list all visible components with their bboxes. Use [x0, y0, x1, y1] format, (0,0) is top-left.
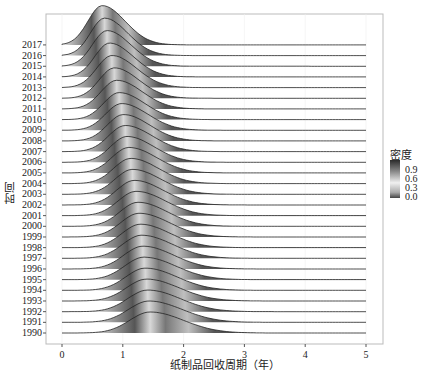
y-tick-label: 1995 [4, 275, 42, 285]
y-tick-label: 2016 [4, 51, 42, 61]
y-tick-label: 2008 [4, 136, 42, 146]
y-tick-label: 1999 [4, 232, 42, 242]
y-tick-label: 1998 [4, 243, 42, 253]
y-tick-label: 2012 [4, 93, 42, 103]
y-tick-label: 2005 [4, 168, 42, 178]
y-tick-label: 2009 [4, 125, 42, 135]
y-tick-label: 2000 [4, 221, 42, 231]
x-tick-label: 0 [52, 349, 72, 360]
y-axis-title: 时间 [2, 182, 18, 204]
x-tick-label: 1 [113, 349, 133, 360]
y-tick-label: 2013 [4, 83, 42, 93]
x-tick-label: 5 [356, 349, 376, 360]
y-tick-label: 2017 [4, 40, 42, 50]
y-tick-label: 1991 [4, 317, 42, 327]
ridgeline-chart [0, 0, 431, 370]
y-tick-label: 1994 [4, 285, 42, 295]
y-tick-label: 2014 [4, 72, 42, 82]
y-tick-label: 1992 [4, 307, 42, 317]
y-tick-label: 1997 [4, 253, 42, 263]
y-tick-label: 2011 [4, 104, 42, 114]
x-axis-title: 纸制品回收周期（年） [150, 356, 300, 370]
y-tick-label: 1993 [4, 296, 42, 306]
legend-colorbar [390, 160, 400, 198]
y-tick-label: 2001 [4, 211, 42, 221]
legend-tick: 0.0 [405, 192, 418, 202]
y-tick-label: 2010 [4, 115, 42, 125]
y-tick-label: 1990 [4, 328, 42, 338]
y-tick-label: 1996 [4, 264, 42, 274]
y-tick-label: 2006 [4, 157, 42, 167]
y-tick-label: 2007 [4, 147, 42, 157]
y-tick-label: 2015 [4, 61, 42, 71]
